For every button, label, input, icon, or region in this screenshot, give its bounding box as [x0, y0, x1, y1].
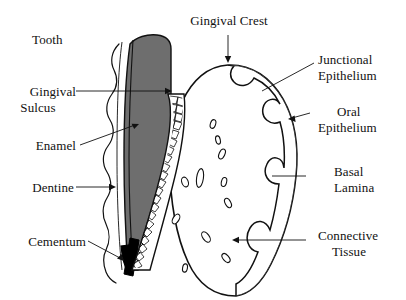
label-oral-epithelium-line2: Epithelium	[318, 120, 377, 135]
label-gingival-sulcus-line2: Sulcus	[0, 100, 76, 115]
label-basal-lamina-line2: Lamina	[334, 180, 374, 195]
sulcus-space	[117, 42, 122, 270]
label-dentine: Dentine	[0, 180, 74, 195]
label-connective-tissue-line1: Connective	[318, 228, 378, 243]
label-cementum: Cementum	[0, 234, 86, 249]
arrowhead-dentine	[109, 184, 116, 190]
label-gingival-sulcus-line1: Gingival	[0, 84, 76, 99]
label-enamel: Enamel	[0, 138, 76, 153]
leader-junctional-epithelium	[262, 63, 314, 91]
tooth-structure	[103, 35, 171, 283]
label-connective-tissue-line2: Tissue	[332, 244, 366, 259]
label-junctional-epithelium-line2: Epithelium	[318, 68, 377, 83]
label-oral-epithelium-line1: Oral	[337, 104, 361, 119]
label-basal-lamina-line1: Basal	[334, 164, 363, 179]
arrowhead-gingival-crest	[225, 56, 231, 63]
gingiva-tooth-diagram: Tooth Gingival Sulcus Enamel Dentine Cem…	[0, 0, 406, 300]
label-tooth: Tooth	[32, 32, 63, 47]
label-junctional-epithelium-line1: Junctional	[318, 52, 372, 67]
label-gingival-crest: Gingival Crest	[165, 13, 293, 28]
